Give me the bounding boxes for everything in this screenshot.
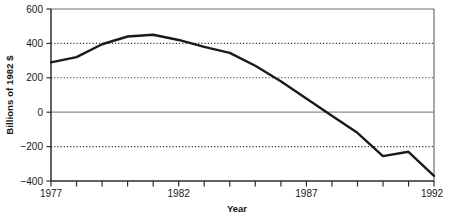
- chart-figure: 600 400 200 0 −200 −400 1977 1982 1987 1…: [0, 0, 451, 217]
- y-tick-label-minus-400: −400: [20, 176, 43, 187]
- line-chart: 600 400 200 0 −200 −400 1977 1982 1987 1…: [0, 0, 451, 217]
- x-tick-label-1992: 1992: [421, 188, 444, 199]
- y-tick-label-600: 600: [26, 4, 43, 15]
- x-tick-label-1987: 1987: [295, 188, 318, 199]
- plot-background: [51, 9, 434, 181]
- x-axis-ticks: [51, 181, 434, 187]
- y-tick-label-minus-200: −200: [20, 141, 43, 152]
- x-tick-labels: 1977 1982 1987 1992: [40, 188, 444, 199]
- y-tick-label-200: 200: [26, 72, 43, 83]
- y-tick-label-400: 400: [26, 38, 43, 49]
- y-axis-title: Billions of 1982 $: [4, 55, 15, 135]
- x-tick-label-1982: 1982: [168, 188, 191, 199]
- x-tick-label-1977: 1977: [40, 188, 63, 199]
- y-tick-labels: 600 400 200 0 −200 −400: [20, 4, 43, 187]
- x-axis-title: Year: [227, 203, 247, 214]
- y-tick-label-0: 0: [37, 107, 43, 118]
